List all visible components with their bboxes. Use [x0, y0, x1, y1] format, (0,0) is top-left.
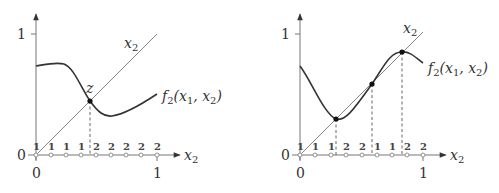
y-tick-label-1: 1 — [17, 26, 26, 42]
grid-node — [124, 153, 128, 157]
y-tick-label-0: 0 — [17, 147, 26, 163]
response-curve — [300, 52, 423, 119]
strategy-label: 2 — [420, 141, 427, 152]
grid-node — [139, 153, 143, 157]
strategy-label: 1 — [78, 141, 85, 152]
grid-node — [390, 153, 394, 157]
x-axis-label: x2 — [450, 147, 464, 165]
grid-node — [298, 153, 302, 157]
strategy-label: 1 — [328, 141, 335, 152]
strategy-label: 2 — [93, 141, 100, 152]
grid-node — [344, 153, 348, 157]
grid-node — [360, 153, 364, 157]
grid-node — [94, 153, 98, 157]
strategy-label: 2 — [123, 141, 130, 152]
grid-node — [64, 153, 68, 157]
x-axis-label: x2 — [184, 147, 198, 165]
strategy-label: 2 — [343, 141, 350, 152]
fixed-point-marker — [399, 49, 404, 54]
strategy-label: 1 — [374, 141, 381, 152]
grid-node — [79, 153, 83, 157]
x-tick-label-1: 1 — [153, 165, 162, 181]
x-tick-label-0: 0 — [32, 165, 41, 181]
strategy-label: 1 — [389, 141, 396, 152]
right-panel: 1 0 0 1 x2 x2 f2(x1, x2) 1 1 1 2 2 — [281, 14, 488, 181]
response-curve — [36, 63, 157, 116]
grid-node — [155, 153, 159, 157]
grid-node — [313, 153, 317, 157]
grid-node — [405, 153, 409, 157]
strategy-label: 1 — [48, 141, 55, 152]
strategy-nodes: 1 1 1 2 2 1 1 2 2 — [297, 141, 427, 157]
fixed-point-marker — [369, 81, 374, 86]
diagonal-label: x2 — [124, 35, 138, 53]
y-tick-label-0: 0 — [281, 147, 290, 163]
strategy-label: 1 — [63, 141, 70, 152]
strategy-label: 1 — [33, 141, 40, 152]
strategy-label: 2 — [404, 141, 411, 152]
diagonal-line — [300, 32, 423, 155]
strategy-label: 2 — [359, 141, 366, 152]
x-tick-label-0: 0 — [296, 165, 305, 181]
grid-node — [49, 153, 53, 157]
grid-node — [109, 153, 113, 157]
grid-node — [375, 153, 379, 157]
strategy-label: 1 — [312, 141, 319, 152]
fixed-point-marker — [87, 98, 92, 103]
diagonal-label: x2 — [403, 20, 417, 38]
diagram-canvas: 1 0 0 1 x2 x2 f2(x1, x2) z 1 1 1 1 — [0, 0, 499, 193]
y-tick-label-1: 1 — [281, 26, 290, 42]
fixed-point-label: z — [85, 80, 94, 96]
strategy-label: 2 — [108, 141, 115, 152]
curve-label: f2(x1, x2) — [161, 88, 222, 106]
strategy-label: 2 — [138, 141, 145, 152]
strategy-label: 1 — [297, 141, 304, 152]
strategy-nodes: 1 1 1 1 2 2 2 2 2 — [33, 141, 161, 157]
left-panel: 1 0 0 1 x2 x2 f2(x1, x2) z 1 1 1 1 — [17, 14, 222, 181]
strategy-label: 2 — [154, 141, 161, 152]
curve-label: f2(x1, x2) — [427, 60, 488, 78]
diagonal-line — [36, 34, 157, 155]
grid-node — [421, 153, 425, 157]
x-tick-label-1: 1 — [419, 165, 428, 181]
grid-node — [34, 153, 38, 157]
fixed-point-marker — [333, 116, 338, 121]
grid-node — [329, 153, 333, 157]
